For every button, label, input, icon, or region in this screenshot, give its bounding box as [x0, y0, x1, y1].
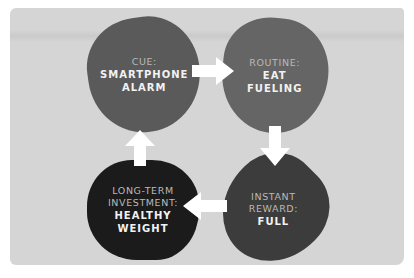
node-long-term-value-line-2: WEIGHT — [118, 222, 169, 235]
node-cue-value-line-2: ALARM — [122, 81, 167, 94]
node-cue-value-line-1: SMARTPHONE — [100, 68, 188, 81]
arrow-right-icon — [192, 57, 234, 85]
arrow-up-icon — [125, 130, 155, 166]
node-instant-reward-value: FULL — [258, 214, 290, 227]
node-instant-reward-label-line-2: REWARD: — [249, 202, 298, 214]
diagram-card — [10, 8, 404, 265]
node-instant-reward-label-line-1: INSTANT — [252, 190, 297, 202]
arrow-down-icon — [260, 126, 290, 166]
node-cue-label: CUE: — [131, 56, 156, 68]
node-long-term-label-line-1: LONG-TERM — [112, 185, 173, 197]
paper-fold-band — [10, 30, 404, 42]
node-routine-value-line-1: EAT — [263, 68, 287, 81]
node-routine-label: ROUTINE: — [250, 56, 301, 68]
node-long-term-value-line-1: HEALTHY — [114, 209, 171, 222]
node-routine-value-line-2: FUELING — [247, 81, 302, 94]
arrow-left-icon — [183, 192, 227, 220]
node-long-term-label-line-2: INVESTMENT: — [108, 197, 178, 209]
